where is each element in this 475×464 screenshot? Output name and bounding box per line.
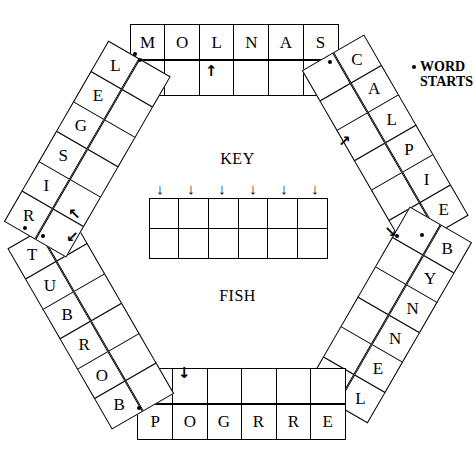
cell-letter: L (355, 390, 365, 407)
cell[interactable]: O (171, 404, 207, 440)
cell-letter: R (253, 414, 264, 431)
key-cell[interactable] (149, 228, 180, 259)
cell[interactable] (206, 368, 242, 404)
cell[interactable]: R (275, 404, 311, 440)
cell-letter: G (74, 117, 86, 134)
cell[interactable] (268, 60, 304, 96)
word-start-dot (23, 226, 27, 230)
hex-word-puzzle: M O L N A S C A L P I E (0, 0, 475, 464)
cell-letter: N (245, 34, 257, 51)
cell-letter: G (218, 414, 230, 431)
cell[interactable] (275, 368, 311, 404)
cell[interactable]: E (310, 404, 346, 440)
cell-letter: L (386, 110, 396, 127)
word-start-dot (328, 60, 332, 64)
key-cell[interactable] (297, 228, 328, 259)
cell-letter: S (316, 34, 325, 51)
bullet-icon (412, 65, 416, 69)
down-arrow-icon: ↓ (176, 182, 207, 196)
word-start-dot (395, 234, 399, 238)
key-cell[interactable] (149, 198, 180, 229)
cell-letter: R (78, 336, 89, 353)
cell[interactable] (310, 368, 346, 404)
cell-letter: M (140, 34, 155, 51)
key-cell[interactable] (208, 198, 239, 229)
cell[interactable]: L (199, 24, 235, 60)
fish-label: FISH (0, 287, 475, 305)
cell[interactable]: R (240, 404, 276, 440)
direction-arrow-upper-left: ↖ (68, 207, 81, 222)
direction-arrow-top: ↑ (205, 64, 218, 79)
word-start-dot (41, 234, 45, 238)
key-grid-row (149, 198, 327, 228)
cell-letter: R (287, 414, 298, 431)
key-label: KEY (0, 150, 475, 168)
word-start-dot (133, 52, 137, 56)
direction-arrow-upper-right: ↗ (338, 134, 351, 149)
key-cell[interactable] (178, 228, 209, 259)
cell-letter: A (280, 34, 292, 51)
word-start-dot (138, 58, 142, 62)
cell-letter: E (373, 360, 383, 377)
word-start-dot (420, 233, 424, 237)
key-cell[interactable] (238, 228, 269, 259)
legend-word-starts: WORD STARTS (412, 60, 473, 89)
key-cell[interactable] (267, 228, 298, 259)
cell-letter: C (351, 51, 362, 68)
cell-letter: A (368, 81, 380, 98)
cell-letter: B (112, 396, 123, 413)
cell-letter: O (176, 34, 188, 51)
cell-letter: N (389, 330, 401, 347)
down-arrow-icon: ↓ (207, 182, 238, 196)
legend-line-1: WORD (420, 59, 465, 74)
key-cell[interactable] (208, 228, 239, 259)
down-arrow-icon: ↓ (145, 182, 176, 196)
cell-letter: L (109, 57, 119, 74)
cell-letter: E (92, 87, 102, 104)
word-start-dot (137, 406, 141, 410)
cell-letter: O (95, 366, 107, 383)
cell-letter: O (183, 414, 195, 431)
band-bottom-outer-row: E R R G O P (130, 404, 346, 440)
direction-arrow-lower-left: ↙ (66, 230, 79, 245)
cell[interactable]: O (164, 24, 200, 60)
down-arrow-icon: ↓ (269, 182, 300, 196)
cell-letter: B (60, 307, 71, 324)
cell[interactable] (240, 368, 276, 404)
key-cell[interactable] (178, 198, 209, 229)
cell[interactable]: A (268, 24, 304, 60)
down-arrow-icon: ↓ (238, 182, 269, 196)
key-grid-row (149, 228, 327, 258)
cell[interactable]: G (206, 404, 242, 440)
key-cell[interactable] (267, 198, 298, 229)
cell[interactable] (233, 60, 269, 96)
key-arrow-row: ↓ ↓ ↓ ↓ ↓ ↓ (0, 182, 475, 196)
cell-letter: P (150, 414, 159, 431)
band-top-outer-row: M O L N A S (130, 24, 346, 60)
down-arrow-icon: ↓ (300, 182, 331, 196)
cell[interactable]: N (233, 24, 269, 60)
cell-letter: L (212, 34, 222, 51)
key-grid (149, 198, 327, 257)
legend-line-2: STARTS (420, 74, 473, 89)
key-cell[interactable] (238, 198, 269, 229)
cell-letter: E (322, 414, 332, 431)
direction-arrow-bottom: ↓ (178, 366, 191, 381)
direction-arrow-lower-right: ↘ (384, 225, 397, 240)
key-cell[interactable] (297, 198, 328, 229)
